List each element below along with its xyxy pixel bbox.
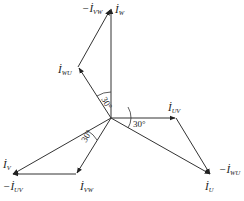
angle-label-right: 30° <box>133 119 146 129</box>
angle-arc-right-lower <box>128 118 131 128</box>
label-i-v: İV <box>2 158 12 171</box>
vector-neg-i-vw <box>78 10 110 67</box>
label-neg-i-uv: −İUV <box>3 180 24 193</box>
label-i-w: İW <box>114 3 125 16</box>
label-neg-i-wu: −İWU <box>219 163 242 176</box>
label-neg-i-vw: −İVW <box>82 2 103 15</box>
label-i-u: İU <box>204 180 215 193</box>
vector-i-u <box>111 118 210 174</box>
angle-arc-right <box>128 107 131 118</box>
angle-label-top: 30° <box>99 95 114 111</box>
label-i-uv: İUV <box>167 101 181 114</box>
phasor-diagram: 30° 30° 30° −İVW İW İWU İUV −İWU İU İV −… <box>0 0 244 201</box>
vector-neg-i-wu <box>176 118 210 174</box>
angle-label-lower-left: 30° <box>79 128 94 144</box>
vector-i-v <box>13 118 111 174</box>
vector-i-vw <box>77 118 111 173</box>
label-i-wu: İWU <box>57 63 73 76</box>
label-i-vw: İVW <box>79 180 94 193</box>
